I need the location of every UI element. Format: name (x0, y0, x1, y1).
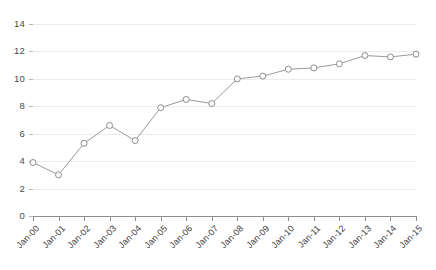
data-point (336, 61, 342, 67)
series-plot (0, 0, 436, 270)
data-point (56, 172, 62, 178)
data-point (413, 51, 419, 57)
data-point (30, 160, 36, 166)
data-point (311, 65, 317, 71)
data-point (107, 122, 113, 128)
data-point (158, 105, 164, 111)
data-point (209, 101, 215, 107)
data-point (387, 54, 393, 60)
data-point (285, 66, 291, 72)
data-point (81, 140, 87, 146)
data-point (362, 53, 368, 59)
data-point (132, 138, 138, 144)
series-markers (30, 51, 419, 178)
line-chart: 02468101214 Jan-00Jan-01Jan-02Jan-03Jan-… (0, 0, 436, 270)
data-point (260, 73, 266, 79)
data-point (183, 96, 189, 102)
series-line (33, 54, 416, 175)
data-point (234, 76, 240, 82)
